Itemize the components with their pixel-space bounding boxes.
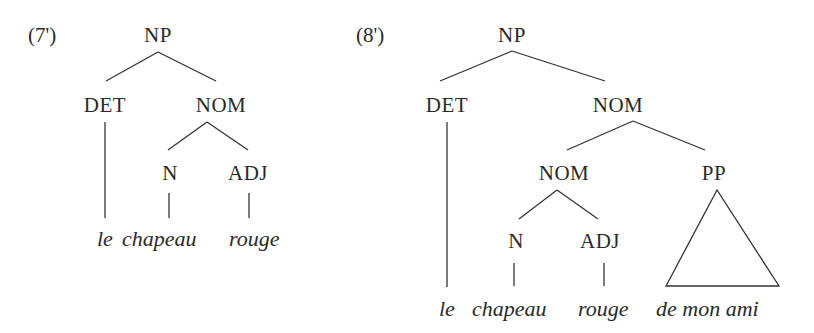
example-number-7: (7') bbox=[28, 25, 56, 46]
node-adj-7: ADJ bbox=[228, 163, 268, 184]
branch-nom-adj-7 bbox=[207, 122, 248, 150]
branch-nom-pp-8 bbox=[633, 121, 705, 150]
branch-np-det-7 bbox=[106, 52, 158, 81]
branch-np-nom-8 bbox=[512, 51, 605, 81]
pp-triangle bbox=[666, 190, 779, 286]
branch-nom-n-8 bbox=[519, 190, 557, 219]
node-nom-inner-8: NOM bbox=[539, 163, 590, 184]
node-np-8: NP bbox=[498, 25, 526, 46]
node-np-7: NP bbox=[144, 25, 172, 46]
branch-nom-nom-8 bbox=[567, 121, 633, 150]
node-pp-8: PP bbox=[702, 163, 726, 184]
word-rouge-8: rouge bbox=[578, 298, 629, 320]
word-de-mon-ami-8: de mon ami bbox=[656, 298, 759, 320]
word-chapeau-8: chapeau bbox=[472, 298, 547, 320]
node-n-7: N bbox=[162, 163, 178, 184]
word-le-7: le bbox=[97, 228, 113, 250]
example-number-8: (8') bbox=[356, 25, 384, 46]
branch-nom-adj-8 bbox=[557, 190, 598, 219]
tree-branches bbox=[0, 0, 814, 333]
branch-np-nom-7 bbox=[158, 52, 216, 81]
node-n-8: N bbox=[508, 231, 524, 252]
word-chapeau-7: chapeau bbox=[122, 228, 197, 250]
word-rouge-7: rouge bbox=[229, 228, 280, 250]
node-nom-8: NOM bbox=[593, 95, 644, 116]
node-nom-7: NOM bbox=[196, 95, 247, 116]
node-det-7: DET bbox=[84, 95, 126, 116]
branch-nom-n-7 bbox=[168, 122, 207, 150]
word-le-8: le bbox=[439, 298, 455, 320]
branch-np-det-8 bbox=[440, 51, 512, 81]
node-det-8: DET bbox=[426, 95, 468, 116]
node-adj-8: ADJ bbox=[580, 231, 620, 252]
